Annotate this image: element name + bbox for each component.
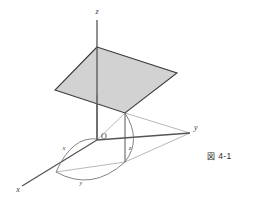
z-component-label: z xyxy=(128,144,132,151)
z-axis-label: z xyxy=(94,7,99,16)
x-axis-label: x xyxy=(15,185,20,194)
figure-caption-symbol: 図 xyxy=(207,150,215,161)
arc-y-component xyxy=(56,162,125,180)
measurement-arcs xyxy=(56,113,134,180)
figure-caption-number: 4-1 xyxy=(218,151,231,161)
figure-container: z y x O x y z 図4-1 xyxy=(0,0,264,200)
y-axis-label: y xyxy=(193,123,198,132)
y-component-label: y xyxy=(79,179,83,186)
x-component-label: x xyxy=(62,144,66,151)
x-axis-line xyxy=(22,140,97,186)
shaded-plane xyxy=(55,47,177,113)
base-edge-zfoot-to-right xyxy=(125,113,190,133)
origin-label: O xyxy=(101,132,107,141)
coordinate-system-diagram: z y x O x y z xyxy=(0,0,264,200)
figure-caption: 図4-1 xyxy=(207,150,232,161)
